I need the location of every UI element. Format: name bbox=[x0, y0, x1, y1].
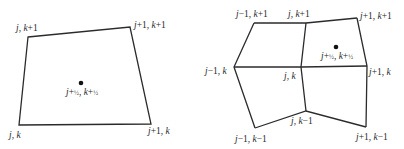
label-left-jp1-k: j+1, k bbox=[146, 126, 171, 136]
left-cell: j, k+1 j+1, k+1 j, k j+1, k j+½, k+½ bbox=[7, 20, 171, 140]
label-left-center: j+½, k+½ bbox=[64, 87, 98, 97]
label-right-center: j+½, k+½ bbox=[319, 51, 353, 61]
label-right-jp1-k: j+1, k bbox=[367, 67, 392, 77]
finite-volume-diagram: j, k+1 j+1, k+1 j, k j+1, k j+½, k+½ j−1… bbox=[0, 0, 404, 149]
grid-line-left bbox=[234, 23, 255, 128]
right-grid-center-dot bbox=[334, 45, 339, 50]
label-right-jm1-k: j−1, k bbox=[203, 66, 228, 76]
grid-line-right bbox=[357, 18, 367, 127]
label-right-jm1-km1: j−1, k−1 bbox=[233, 134, 267, 144]
label-left-j-kp1: j, k+1 bbox=[14, 23, 38, 33]
label-right-j-k: j, k bbox=[282, 71, 296, 81]
left-cell-center-dot bbox=[79, 81, 84, 86]
label-right-jp1-km1: j+1, k−1 bbox=[354, 132, 388, 142]
label-right-jp1-kp1: j+1, k+1 bbox=[358, 11, 392, 21]
label-left-j-k: j, k bbox=[7, 130, 21, 140]
right-grid: j−1, k+1 j, k+1 j+1, k+1 j−1, k j, k j+1… bbox=[203, 9, 392, 144]
label-left-jp1-kp1: j+1, k+1 bbox=[132, 20, 166, 30]
label-right-jm1-kp1: j−1, k+1 bbox=[234, 9, 268, 19]
left-cell-quad bbox=[19, 27, 151, 125]
label-right-j-km1: j, k−1 bbox=[289, 116, 313, 126]
label-right-j-kp1: j, k+1 bbox=[286, 9, 310, 19]
